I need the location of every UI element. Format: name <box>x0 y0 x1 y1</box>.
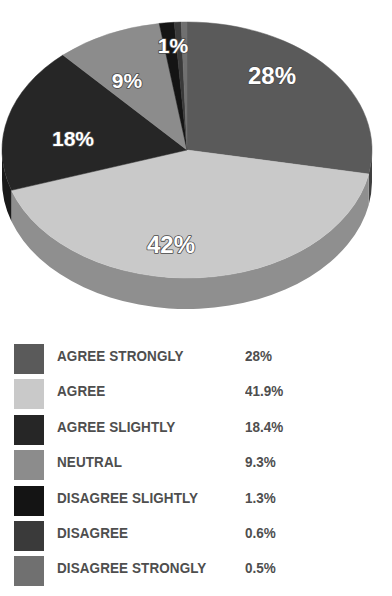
legend-value: 9.3% <box>245 454 276 470</box>
legend-label: DISAGREE STRONGLY <box>57 560 206 576</box>
legend-label: AGREE <box>57 383 105 399</box>
legend-label: DISAGREE <box>57 525 128 541</box>
legend-value: 0.5% <box>245 560 276 576</box>
legend-label: DISAGREE SLIGHTLY <box>57 490 198 506</box>
legend: AGREE STRONGLY28%AGREE41.9%AGREE SLIGHTL… <box>0 344 392 596</box>
pie-chart: 28%42%18%9%1% <box>0 0 392 338</box>
pie-chart-page: 28%42%18%9%1% AGREE STRONGLY28%AGREE41.9… <box>0 0 392 596</box>
legend-color-swatch <box>14 450 44 480</box>
legend-row: DISAGREE0.6% <box>0 521 392 552</box>
legend-value: 18.4% <box>245 419 283 435</box>
legend-label: AGREE STRONGLY <box>57 348 184 364</box>
pie-slice-label: 1% <box>158 34 189 57</box>
legend-row: DISAGREE STRONGLY0.5% <box>0 556 392 587</box>
legend-row: AGREE STRONGLY28% <box>0 344 392 375</box>
legend-color-swatch <box>14 344 44 374</box>
pie-slice <box>187 22 372 174</box>
legend-color-swatch <box>14 486 44 516</box>
legend-value: 28% <box>245 348 272 364</box>
legend-value: 1.3% <box>245 490 276 506</box>
legend-label: AGREE SLIGHTLY <box>57 419 175 435</box>
legend-color-swatch <box>14 521 44 551</box>
legend-row: AGREE SLIGHTLY18.4% <box>0 415 392 446</box>
legend-label: NEUTRAL <box>57 454 122 470</box>
pie-slice-label: 28% <box>248 62 296 89</box>
legend-row: DISAGREE SLIGHTLY1.3% <box>0 486 392 517</box>
legend-value: 0.6% <box>245 525 276 541</box>
legend-row: AGREE41.9% <box>0 379 392 410</box>
legend-color-swatch <box>14 415 44 445</box>
pie-slice-label: 9% <box>112 69 143 92</box>
pie-slice-label: 18% <box>52 127 94 150</box>
pie-slice-label: 42% <box>147 231 195 258</box>
legend-color-swatch <box>14 556 44 586</box>
legend-value: 41.9% <box>245 383 283 399</box>
pie-chart-svg: 28%42%18%9%1% <box>0 0 392 338</box>
legend-row: NEUTRAL9.3% <box>0 450 392 481</box>
legend-color-swatch <box>14 379 44 409</box>
